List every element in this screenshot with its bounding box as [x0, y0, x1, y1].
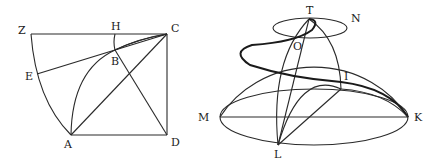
label-D: D	[171, 136, 180, 149]
label-H: H	[111, 20, 121, 33]
geometry-figure: Z H C B E A D T N O I M K L	[0, 0, 440, 163]
quadratrix-figure: Z H C B E A D	[18, 20, 180, 151]
label-K: K	[414, 111, 423, 124]
label-E: E	[25, 70, 33, 83]
segment-BD	[115, 50, 167, 135]
label-T: T	[306, 4, 314, 17]
label-N: N	[351, 12, 361, 25]
arc-ZA	[31, 34, 71, 135]
label-C: C	[171, 22, 179, 35]
label-A: A	[63, 138, 73, 151]
small-circle-top	[273, 18, 347, 38]
label-L: L	[274, 148, 282, 161]
hemisphere-figure: T N O I M K L	[198, 4, 423, 161]
label-B: B	[111, 55, 119, 68]
label-M: M	[198, 111, 209, 124]
arc-HB	[114, 34, 115, 50]
label-O: O	[293, 40, 302, 53]
label-Z: Z	[18, 24, 26, 37]
label-I: I	[344, 70, 348, 83]
